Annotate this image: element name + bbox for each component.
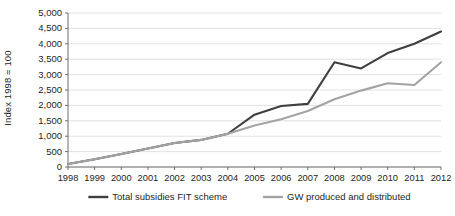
x-tick-label: 1999 [84, 173, 105, 183]
y-axis-ticks: 05001,0001,5002,0002,5003,0003,5004,0004… [38, 7, 68, 172]
x-axis-ticks: 1998199920002001200220032004200520062007… [58, 167, 452, 183]
plot-area: 05001,0001,5002,0002,5003,0003,5004,0004… [0, 0, 455, 216]
x-tick-label: 2006 [271, 173, 292, 183]
y-tick-label: 500 [46, 146, 62, 157]
x-tick-label: 2008 [324, 173, 345, 183]
y-tick-label: 1,500 [38, 115, 62, 126]
series-line-1 [68, 31, 441, 163]
x-tick-label: 2000 [111, 173, 132, 183]
y-tick-label: 2,500 [38, 84, 62, 95]
gridlines [68, 13, 441, 167]
x-tick-label: 2003 [191, 173, 212, 183]
y-tick-label: 2,000 [38, 99, 62, 110]
x-tick-label: 1998 [58, 173, 79, 183]
legend-label-2: GW produced and distributed [287, 191, 411, 202]
x-tick-label: 2004 [218, 173, 239, 183]
x-tick-label: 2009 [351, 173, 372, 183]
x-tick-label: 2012 [431, 173, 452, 183]
series-line-2 [68, 62, 441, 164]
x-tick-label: 2001 [138, 173, 159, 183]
x-tick-label: 2005 [244, 173, 265, 183]
data-series [68, 31, 441, 163]
y-tick-label: 4,000 [38, 38, 62, 49]
chart-legend: Total subsidies FIT schemeGW produced an… [88, 191, 410, 202]
y-tick-label: 5,000 [38, 7, 62, 18]
y-tick-label: 3,500 [38, 53, 62, 64]
x-tick-label: 2007 [297, 173, 318, 183]
x-tick-label: 2011 [404, 173, 424, 183]
chart-container: Index 1998 = 100 05001,0001,5002,0002,50… [0, 0, 455, 216]
y-tick-label: 1,000 [38, 130, 62, 141]
x-tick-label: 2010 [377, 173, 398, 183]
legend-label-1: Total subsidies FIT scheme [112, 191, 227, 202]
y-tick-label: 3,000 [38, 69, 62, 80]
x-tick-label: 2002 [164, 173, 185, 183]
line-chart-svg: 05001,0001,5002,0002,5003,0003,5004,0004… [0, 0, 455, 216]
y-tick-label: 0 [57, 161, 62, 172]
y-tick-label: 4,500 [38, 22, 62, 33]
